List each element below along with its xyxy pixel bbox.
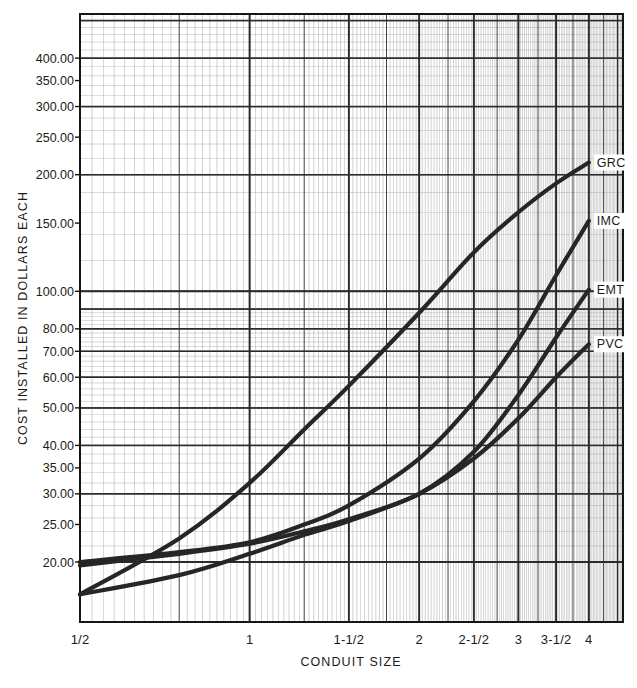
series-label-emt: EMT bbox=[597, 283, 624, 297]
x-tick-label: 1 bbox=[246, 632, 253, 647]
log-log-cost-chart: GRCIMCEMTPVC400.00350.00300.00250.00200.… bbox=[0, 0, 637, 688]
x-tick-label: 2-1/2 bbox=[458, 632, 489, 647]
x-axis-title: CONDUIT SIZE bbox=[300, 655, 401, 669]
x-tick-label: 3 bbox=[515, 632, 522, 647]
y-tick-label: 30.00 bbox=[43, 487, 74, 501]
chart-container: GRCIMCEMTPVC400.00350.00300.00250.00200.… bbox=[0, 0, 637, 688]
y-tick-label: 35.00 bbox=[43, 461, 74, 475]
x-tick-label: 1-1/2 bbox=[333, 632, 364, 647]
y-tick-label: 80.00 bbox=[43, 322, 74, 336]
y-tick-label: 20.00 bbox=[43, 556, 74, 570]
series-label-pvc: PVC bbox=[597, 337, 624, 351]
x-tick-label: 3-1/2 bbox=[541, 632, 572, 647]
y-tick-label: 250.00 bbox=[36, 131, 74, 145]
y-tick-label: 350.00 bbox=[36, 74, 74, 88]
y-axis-title: COST INSTALLED IN DOLLARS EACH bbox=[16, 191, 30, 445]
x-tick-label: 1/2 bbox=[71, 632, 90, 647]
series-label-grc: GRC bbox=[597, 156, 626, 170]
y-tick-label: 400.00 bbox=[36, 52, 74, 66]
series-label-imc: IMC bbox=[597, 214, 621, 228]
y-tick-label: 25.00 bbox=[43, 518, 74, 532]
x-tick-label: 2 bbox=[415, 632, 422, 647]
y-tick-label: 300.00 bbox=[36, 100, 74, 114]
y-tick-label: 50.00 bbox=[43, 401, 74, 415]
y-tick-label: 100.00 bbox=[36, 285, 74, 299]
y-tick-label: 200.00 bbox=[36, 168, 74, 182]
y-tick-label: 70.00 bbox=[43, 345, 74, 359]
x-tick-label: 4 bbox=[585, 632, 592, 647]
y-tick-label: 150.00 bbox=[36, 217, 74, 231]
y-tick-label: 60.00 bbox=[43, 371, 74, 385]
y-tick-label: 40.00 bbox=[43, 439, 74, 453]
